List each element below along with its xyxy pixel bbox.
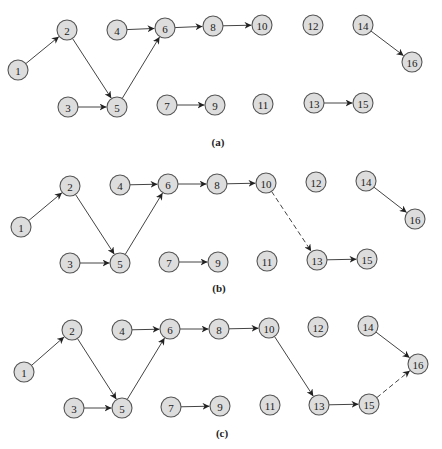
edge-13-to-15 [327, 259, 357, 260]
node-label: 16 [407, 57, 419, 69]
node-7: 7 [157, 95, 177, 115]
node-16: 16 [405, 209, 425, 229]
node-label: 7 [166, 257, 172, 269]
node-12: 12 [303, 15, 323, 35]
edge-1-to-2 [32, 337, 65, 366]
node-5: 5 [112, 398, 132, 418]
edge-15-to-16-dashed [377, 371, 410, 398]
node-label: 3 [65, 102, 71, 114]
node-label: 10 [257, 20, 269, 32]
node-6: 6 [160, 319, 180, 339]
node-label: 8 [216, 324, 222, 336]
node-label: 9 [212, 100, 218, 112]
node-16: 16 [408, 354, 428, 374]
node-5: 5 [107, 97, 127, 117]
node-13: 13 [309, 395, 329, 415]
edge-14-to-16 [374, 187, 407, 212]
node-11: 11 [260, 395, 280, 415]
panel-c: 12345678910111213141516(c) [14, 316, 428, 440]
panel-a: 12345678910111213141516(a) [8, 15, 422, 149]
node-label: 15 [364, 399, 376, 411]
node-label: 14 [363, 321, 375, 333]
node-14: 14 [358, 316, 378, 336]
node-2: 2 [57, 20, 77, 40]
panel-label: (b) [212, 282, 226, 295]
node-label: 2 [67, 181, 73, 193]
node-3: 3 [60, 253, 80, 273]
node-label: 14 [358, 20, 370, 32]
node-label: 3 [71, 403, 77, 415]
edge-13-to-15 [329, 404, 359, 405]
node-label: 2 [69, 325, 75, 337]
edge-2-to-5 [72, 38, 111, 98]
node-11: 11 [257, 251, 277, 271]
node-label: 8 [214, 179, 220, 191]
node-label: 11 [262, 256, 273, 268]
node-label: 6 [162, 23, 168, 35]
node-label: 12 [308, 20, 319, 32]
node-6: 6 [158, 174, 178, 194]
edge-5-to-6 [127, 338, 164, 399]
node-label: 4 [117, 180, 123, 192]
edge-10-to-13 [274, 336, 313, 396]
node-8: 8 [203, 16, 223, 36]
node-label: 12 [313, 322, 324, 334]
node-4: 4 [107, 20, 127, 40]
node-15: 15 [353, 93, 373, 113]
node-10: 10 [259, 318, 279, 338]
node-3: 3 [58, 97, 78, 117]
node-9: 9 [205, 95, 225, 115]
node-13: 13 [307, 250, 327, 270]
node-label: 16 [413, 359, 425, 371]
node-label: 10 [264, 323, 276, 335]
node-8: 8 [209, 319, 229, 339]
node-label: 9 [217, 401, 223, 413]
diagram-figure: 12345678910111213141516(a) 1234567891011… [0, 0, 442, 449]
edge-1-to-2 [26, 37, 59, 64]
node-label: 8 [210, 21, 216, 33]
node-4: 4 [112, 320, 132, 340]
node-label: 5 [114, 102, 120, 114]
node-13: 13 [304, 93, 324, 113]
edge-7-to-9 [181, 406, 210, 407]
node-label: 1 [15, 65, 21, 77]
node-14: 14 [356, 171, 376, 191]
node-1: 1 [8, 60, 28, 80]
node-8: 8 [207, 174, 227, 194]
node-10: 10 [256, 173, 276, 193]
node-label: 5 [117, 258, 123, 270]
node-label: 4 [114, 25, 120, 37]
edge-10-to-13-dashed [272, 191, 312, 251]
edge-8-to-10 [229, 328, 259, 329]
node-2: 2 [60, 176, 80, 196]
node-11: 11 [253, 94, 273, 114]
panel-b: 12345678910111213141516(b) [11, 171, 425, 295]
node-9: 9 [210, 396, 230, 416]
graph-canvas: 12345678910111213141516(a) 1234567891011… [0, 0, 442, 449]
node-label: 5 [119, 403, 125, 415]
node-5: 5 [110, 253, 130, 273]
node-12: 12 [306, 172, 326, 192]
node-6: 6 [155, 18, 175, 38]
node-label: 3 [67, 258, 73, 270]
node-label: 11 [265, 400, 276, 412]
node-label: 6 [165, 179, 171, 191]
node-label: 6 [167, 324, 173, 336]
edge-2-to-5 [75, 194, 114, 254]
node-12: 12 [308, 317, 328, 337]
node-15: 15 [359, 394, 379, 414]
edge-1-to-2 [29, 193, 62, 221]
node-label: 7 [164, 100, 170, 112]
node-16: 16 [402, 52, 422, 72]
node-label: 15 [362, 254, 374, 266]
node-label: 7 [168, 402, 174, 414]
edge-5-to-6 [125, 193, 162, 254]
node-label: 1 [21, 367, 27, 379]
node-label: 13 [312, 255, 324, 267]
node-label: 13 [314, 400, 326, 412]
node-7: 7 [161, 397, 181, 417]
node-label: 15 [358, 98, 370, 110]
node-1: 1 [14, 362, 34, 382]
node-14: 14 [353, 15, 373, 35]
edge-8-to-10 [227, 183, 256, 184]
